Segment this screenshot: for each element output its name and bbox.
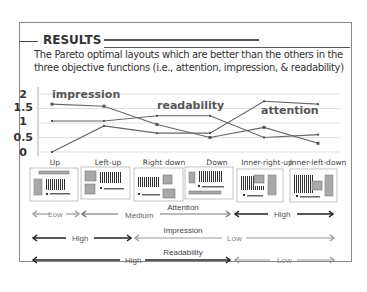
data-point-impression bbox=[51, 103, 54, 106]
data-point-impression bbox=[317, 142, 320, 145]
layout-thumbnail-up bbox=[30, 168, 78, 201]
x-label: Inner-right-up bbox=[241, 158, 293, 167]
x-label: Left-up bbox=[95, 158, 122, 167]
layout-thumbnail-right-down bbox=[134, 168, 183, 201]
annotation-attention: attention bbox=[261, 104, 319, 117]
y-tick-0: 0 bbox=[19, 146, 27, 159]
data-point-readability bbox=[263, 137, 265, 139]
annotation-readability: readability bbox=[157, 99, 224, 112]
x-label: Inner-left-down bbox=[290, 158, 347, 167]
scale-readability-title: Readability bbox=[163, 248, 203, 257]
scale-impression: Impression High Low bbox=[33, 226, 334, 243]
scale-attention-title: Attention bbox=[167, 203, 199, 212]
y-tick-0.5: 0.5 bbox=[14, 131, 34, 144]
x-axis-labels: UpLeft-upRight downDownInner-right-upInn… bbox=[50, 158, 347, 167]
scale-attention-low: Low bbox=[48, 210, 63, 219]
layout-thumbnail-inner-left-down bbox=[290, 169, 337, 202]
x-label: Right down bbox=[143, 158, 186, 167]
data-point-readability bbox=[51, 120, 53, 122]
layout-thumbnail-inner-right-up bbox=[237, 169, 283, 202]
data-point-attention bbox=[209, 132, 211, 134]
data-point-readability bbox=[209, 115, 211, 117]
scale-attention: Attention Low Medium High bbox=[33, 203, 333, 220]
scale-readability: Readability High Low bbox=[33, 248, 334, 265]
scale-impression-low: Low bbox=[227, 234, 242, 243]
layout-thumbnails bbox=[30, 167, 337, 202]
data-point-impression bbox=[263, 126, 266, 129]
data-point-attention bbox=[263, 100, 265, 102]
scale-readability-high: High bbox=[125, 256, 141, 265]
data-point-readability bbox=[156, 115, 158, 117]
data-point-attention bbox=[103, 125, 105, 127]
layout-thumbnail-down bbox=[185, 167, 233, 199]
y-axis: 2 1.5 1 0.5 0 bbox=[14, 87, 39, 159]
data-point-readability bbox=[317, 134, 319, 136]
scale-impression-title: Impression bbox=[163, 226, 202, 235]
scale-attention-medium: Medium bbox=[125, 211, 154, 220]
y-tick-2: 2 bbox=[19, 88, 27, 101]
annotation-impression: impression bbox=[52, 88, 120, 101]
data-point-impression bbox=[156, 123, 159, 126]
scale-impression-high: High bbox=[72, 234, 88, 243]
scale-attention-high: High bbox=[274, 210, 290, 219]
data-point-attention bbox=[156, 132, 158, 134]
data-point-impression bbox=[209, 136, 212, 139]
data-point-attention bbox=[51, 151, 53, 153]
y-tick-1.5: 1.5 bbox=[14, 101, 34, 114]
series-line-readability bbox=[52, 116, 318, 138]
layout-thumbnail-left-up bbox=[81, 167, 130, 199]
data-point-impression bbox=[103, 105, 106, 108]
scale-readability-low: Low bbox=[277, 256, 292, 265]
data-point-readability bbox=[103, 120, 105, 122]
x-label: Up bbox=[50, 158, 60, 167]
y-tick-1: 1 bbox=[19, 115, 27, 128]
chart-svg: 2 1.5 1 0.5 0 impression readability att… bbox=[0, 0, 367, 292]
x-label: Down bbox=[206, 158, 227, 167]
